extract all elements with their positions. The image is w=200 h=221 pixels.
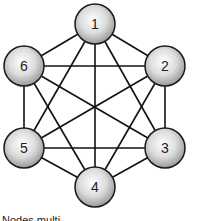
node-6: 6 bbox=[4, 46, 44, 86]
edge-2-4 bbox=[95, 66, 165, 187]
node-label: 5 bbox=[20, 140, 28, 156]
node-label: 3 bbox=[161, 140, 169, 156]
node-2: 2 bbox=[145, 46, 185, 86]
node-label: 2 bbox=[161, 58, 169, 74]
node-1: 1 bbox=[75, 4, 115, 44]
node-label: 6 bbox=[20, 58, 28, 74]
complete-graph-diagram: 123456 bbox=[0, 0, 200, 221]
node-3: 3 bbox=[145, 128, 185, 168]
node-4: 4 bbox=[75, 167, 115, 207]
edges-group bbox=[24, 24, 165, 187]
node-label: 1 bbox=[91, 16, 99, 32]
node-label: 4 bbox=[91, 179, 99, 195]
figure-caption: Nodes multi... bbox=[2, 214, 69, 221]
edge-4-6 bbox=[24, 66, 95, 187]
node-5: 5 bbox=[4, 128, 44, 168]
